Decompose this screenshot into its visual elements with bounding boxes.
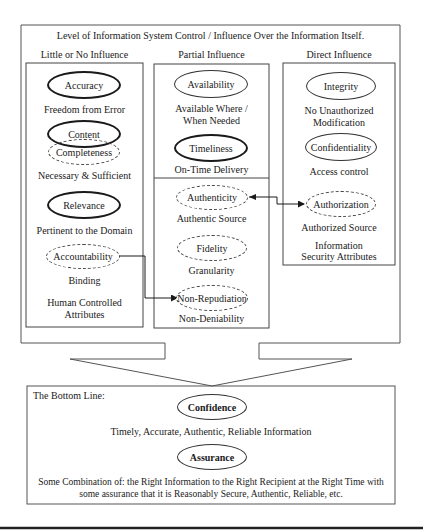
caption-confidentiality: Access control <box>283 166 395 178</box>
caption-availability-1: Available Where / <box>154 103 269 115</box>
caption-non-repudiation: Non-Deniability <box>154 313 269 325</box>
ellipse-accuracy: Accuracy <box>47 71 121 99</box>
caption-availability-2: When Needed <box>154 115 269 127</box>
footer-information-2: Security Attributes <box>283 251 395 263</box>
caption-authorization: Authorized Source <box>283 222 395 234</box>
ellipse-confidence: Confidence <box>177 394 247 420</box>
bottom-line-label: The Bottom Line: <box>33 390 105 402</box>
ellipse-non-repudiation: Non-Repudiation <box>176 285 248 311</box>
caption-authenticity: Authentic Source <box>154 213 269 225</box>
ellipse-integrity: Integrity <box>306 72 376 100</box>
ellipse-completeness: Completeness <box>48 139 120 165</box>
caption-fidelity: Granularity <box>154 265 269 277</box>
caption-assurance-2: some assurance that it is Reasonably Sec… <box>27 488 395 500</box>
caption-accuracy: Freedom from Error <box>26 104 143 116</box>
caption-integrity-1: No Unauthorized <box>283 105 395 117</box>
ellipse-confidentiality: Confidentiality <box>305 133 377 161</box>
arrowhead-authenticity <box>249 194 256 200</box>
ellipse-assurance: Assurance <box>177 444 247 470</box>
caption-relevance: Pertinent to the Domain <box>26 225 143 237</box>
caption-assurance-1: Some Combination of: the Right Informati… <box>27 476 395 488</box>
ellipse-accountability: Accountability <box>46 244 120 269</box>
footer-human-controlled-1: Human Controlled <box>26 297 143 309</box>
ellipse-availability: Availability <box>174 70 248 98</box>
heading-direct-influence: Direct Influence <box>279 49 399 61</box>
diagram-title: Level of Information System Control / In… <box>21 30 400 42</box>
caption-completeness: Necessary & Sufficient <box>26 170 143 182</box>
ellipse-authorization: Authorization <box>306 191 376 217</box>
connector-authenticity-authorization <box>249 197 304 204</box>
ellipse-timeliness: Timeliness <box>174 134 248 162</box>
ellipse-fidelity: Fidelity <box>177 235 247 261</box>
caption-integrity-2: Modification <box>283 117 395 129</box>
caption-accountability: Binding <box>26 275 143 287</box>
ellipse-authenticity: Authenticity <box>176 185 248 210</box>
caption-timeliness: On-Time Delivery <box>154 164 269 176</box>
caption-confidence: Timely, Accurate, Authentic, Reliable In… <box>27 426 395 438</box>
heading-little-influence: Little or No Influence <box>16 49 153 61</box>
footer-human-controlled-2: Attributes <box>26 309 143 321</box>
ellipse-relevance: Relevance <box>47 191 121 219</box>
heading-partial-influence: Partial Influence <box>150 49 273 61</box>
